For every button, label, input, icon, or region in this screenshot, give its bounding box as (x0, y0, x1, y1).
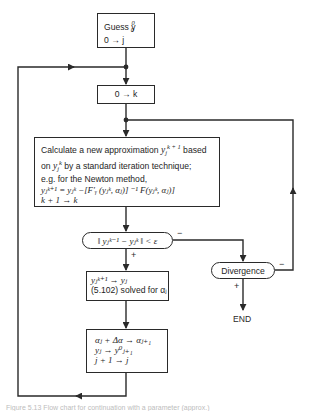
iterate-line-1-tail: based (181, 145, 207, 155)
init-guess-sup: 0 (132, 19, 135, 26)
iterate-line-2-tail: by a standard iteration technique; (62, 161, 191, 171)
advance-alpha: αⱼ + Δα → αⱼ₊₁ (95, 335, 159, 345)
reset-k-box: 0 → k (97, 85, 155, 104)
accept-line-2: (5.102) solved for αⱼ (91, 285, 164, 295)
advance-j: j + 1 → j (95, 355, 159, 365)
reset-k-text: 0 → k (115, 89, 137, 99)
iterate-line-1-text: Calculate a new approximation (41, 145, 161, 155)
advance-box: αⱼ + Δα → αⱼ₊₁ yⱼ → y⁰ⱼ₊₁ j + 1 → j (86, 329, 168, 373)
increment-k: k + 1 → k (41, 195, 213, 205)
iterate-line-2-text: on (41, 161, 53, 171)
convergence-test-text: ‖ yⱼᵏ⁻¹ − yⱼᵏ ‖ < ε (98, 236, 158, 246)
accept-box: yⱼᵏ⁺¹ → yⱼ (5.102) solved for αⱼ (86, 271, 169, 301)
divergence-decision: Divergence (211, 262, 275, 279)
accept-line-1: yⱼᵏ⁺¹ → yⱼ (91, 275, 164, 285)
iterate-line-3: e.g. for the Newton method, (41, 174, 213, 184)
test-plus-label: + (131, 250, 136, 260)
end-terminal: END (233, 314, 251, 324)
convergence-test-decision: ‖ yⱼᵏ⁻¹ − yⱼᵏ ‖ < ε (82, 232, 173, 249)
divergence-minus-label: − (279, 259, 284, 269)
iterate-line-1-sup: k + 1 (167, 143, 181, 150)
iterate-line-1: Calculate a new approximation yjk + 1 ba… (41, 142, 213, 158)
iterate-line-2-sub: j (57, 165, 59, 172)
iterate-box: Calculate a new approximation yjk + 1 ba… (34, 137, 220, 207)
divergence-text: Divergence (221, 266, 264, 276)
newton-formula: yⱼᵏ⁺¹ = yⱼᵏ −[F′ᵧ (yⱼᵏ, αⱼ)] ⁻¹ F(yⱼᵏ, α… (41, 185, 213, 195)
iterate-line-2: on yjk by a standard iteration technique… (41, 158, 213, 174)
init-guess-line: Guess y00 (104, 19, 148, 35)
init-guess-sub: 0 (131, 26, 134, 33)
init-box: Guess y00 0 → j (97, 13, 155, 48)
advance-y: yⱼ → y⁰ⱼ₊₁ (95, 345, 159, 355)
init-assign-j: 0 → j (104, 35, 148, 45)
divergence-plus-label: + (234, 281, 239, 291)
figure-caption: Figure 5.13 Flow chart for continuation … (6, 404, 210, 411)
test-minus-label: − (177, 228, 182, 238)
iterate-line-1-sub: j (165, 149, 167, 156)
